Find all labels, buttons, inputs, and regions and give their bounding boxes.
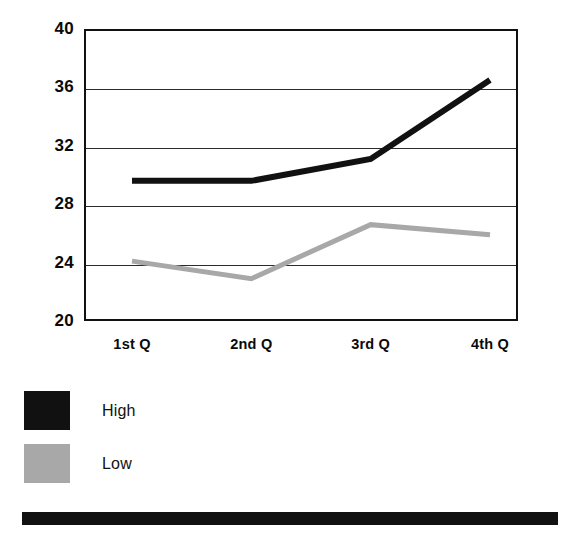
legend-item[interactable]: High [24,391,284,444]
bottom-rule [22,512,558,525]
chart-legend: HighLow [24,391,284,497]
y-tick-label: 40 [54,19,74,39]
x-axis: 1st Q2nd Q3rd Q4th Q [84,336,518,360]
y-tick-label: 20 [54,311,74,331]
series-line-high [132,80,490,181]
y-axis: 202428323640 [36,29,80,321]
series-layer [84,29,518,321]
x-tick-label: 3rd Q [351,336,390,352]
legend-swatch-low [24,444,70,483]
y-tick-label: 24 [54,253,74,273]
legend-item[interactable]: Low [24,444,284,497]
y-tick-label: 36 [54,77,74,97]
x-tick-label: 4th Q [471,336,509,352]
legend-label: Low [102,455,132,473]
legend-swatch-high [24,391,70,430]
legend-label: High [102,402,136,420]
y-tick-label: 32 [54,136,74,156]
x-tick-label: 2nd Q [230,336,272,352]
y-tick-label: 28 [54,194,74,214]
series-line-low [132,225,490,279]
x-tick-label: 1st Q [113,336,150,352]
chart-figure: 202428323640 1st Q2nd Q3rd Q4th Q HighLo… [0,0,578,533]
